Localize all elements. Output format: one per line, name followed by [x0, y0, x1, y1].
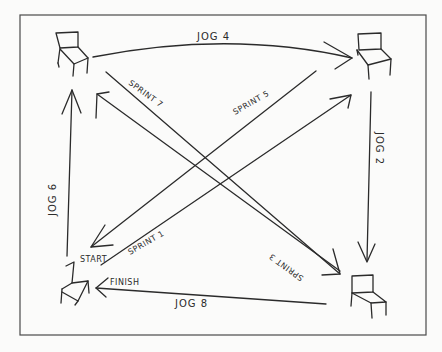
svg-text:JOG 4: JOG 4	[196, 31, 230, 42]
start-label: START	[80, 255, 107, 264]
edge-jog-8: JOG 8 FINISH	[96, 278, 326, 309]
svg-text:SPRINT 7: SPRINT 7	[127, 78, 165, 109]
edge-sprint-3: SPRINT 3	[106, 72, 340, 283]
edge-sprint-1: SPRINT 1	[101, 95, 351, 265]
chair-top-right-icon	[357, 33, 391, 79]
frame-border	[20, 15, 426, 335]
svg-text:JOG 6: JOG 6	[47, 183, 58, 217]
chair-bottom-right-icon	[351, 275, 386, 318]
chair-bottom-left-icon	[61, 262, 89, 305]
chair-top-left-icon	[56, 32, 88, 76]
svg-text:SPRINT 1: SPRINT 1	[127, 229, 166, 257]
drill-diagram: JOG 4 JOG 2 JOG 8 FINISH JOG 6 START SPR…	[0, 0, 442, 352]
edge-sprint-5: SPRINT 5	[91, 71, 316, 247]
edge-jog-4: JOG 4	[93, 31, 352, 69]
svg-text:SPRINT 5: SPRINT 5	[232, 89, 271, 117]
svg-text:FINISH: FINISH	[110, 278, 139, 287]
svg-text:JOG 8: JOG 8	[174, 298, 208, 309]
svg-text:JOG 2: JOG 2	[374, 131, 385, 165]
edge-jog-2: JOG 2	[358, 92, 385, 262]
edge-jog-6: JOG 6	[47, 90, 81, 256]
svg-text:SPRINT 3: SPRINT 3	[267, 252, 305, 283]
